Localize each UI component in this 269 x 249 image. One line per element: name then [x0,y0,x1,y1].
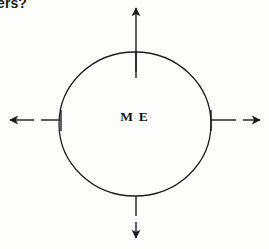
center-node-label: M E [0,110,269,124]
center-node-ellipse [59,52,211,196]
diagram-page: ers? [0,0,269,249]
me-radial-diagram [0,0,269,249]
